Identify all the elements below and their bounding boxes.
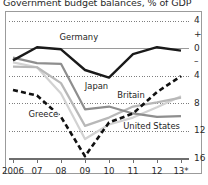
series-label-germany: Germany	[59, 33, 100, 42]
x-axis-tick-12: 12	[144, 167, 170, 176]
x-axis-tick-09: 09	[72, 167, 98, 176]
x-axis-tick-10: 10	[96, 167, 122, 176]
plot-area	[5, 11, 202, 174]
chart-title: Government budget balances, % of GDP	[3, 0, 208, 8]
y-axis-tick-12: 12	[194, 126, 205, 135]
y-axis-tick-4: 4	[194, 16, 200, 25]
series-label-united-states: United States	[122, 122, 181, 131]
y-axis-tick-8: 8	[194, 99, 200, 108]
x-axis-tick-08: 08	[48, 167, 74, 176]
x-axis-tick-2006: 2006	[0, 167, 26, 176]
x-axis-tick-11: 11	[120, 167, 146, 176]
y-axis-tick-16: 16	[194, 154, 205, 163]
series-label-britain: Britain	[116, 91, 146, 100]
x-axis-tick-13: 13*	[168, 167, 194, 176]
y-axis-tick-: –	[194, 57, 199, 66]
x-axis-tick-07: 07	[24, 167, 50, 176]
y-axis-tick-0: 0	[194, 44, 200, 53]
chart-figure: Government budget balances, % of GDP 4+0…	[0, 0, 208, 185]
y-axis-tick-4: 4	[194, 71, 200, 80]
series-label-japan: Japan	[84, 82, 109, 91]
y-axis-tick-: +	[194, 30, 202, 39]
series-label-greece: Greece	[27, 110, 59, 119]
